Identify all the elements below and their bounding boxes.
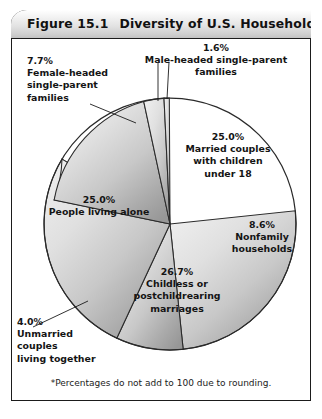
pie-label-people-living-alone: 25.0% People living alone bbox=[31, 194, 167, 218]
pie-label-unmarried-couples: 4.0% Unmarried couples living together bbox=[17, 316, 121, 365]
figure-title: Diversity of U.S. Households, 1996* bbox=[119, 16, 311, 31]
figure-number: Figure 15.1 bbox=[27, 16, 108, 31]
pie-label-male-headed: 1.6% Male-headed single-parent families bbox=[129, 42, 303, 79]
figure-root: Figure 15.1Diversity of U.S. Households,… bbox=[0, 0, 322, 419]
figure-title-bar: Figure 15.1Diversity of U.S. Households,… bbox=[11, 10, 311, 39]
pie-label-female-headed: 7.7% Female-headed single-parent familie… bbox=[27, 55, 129, 104]
page-title: Figure 15.1Diversity of U.S. Households,… bbox=[27, 16, 311, 31]
pie-label-nonfamily-households: 8.6% Nonfamily households bbox=[223, 219, 301, 256]
pie-label-married-couples: 25.0% Married couples with children unde… bbox=[168, 131, 288, 180]
figure-footnote: *Percentages do not add to 100 due to ro… bbox=[11, 378, 311, 388]
pie-label-childless-marriages: 26.7% Childless or postchildrearing marr… bbox=[115, 266, 239, 315]
pie-chart: 1.6% Male-headed single-parent families … bbox=[11, 39, 311, 372]
